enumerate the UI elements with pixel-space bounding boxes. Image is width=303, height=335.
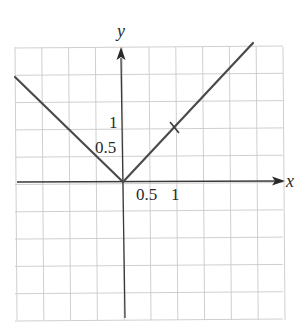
y-axis-label: y bbox=[115, 21, 125, 41]
grid-line-horizontal bbox=[15, 128, 283, 130]
x-axis-label: x bbox=[285, 171, 294, 191]
grid-line-horizontal bbox=[15, 319, 283, 321]
grid-line-vertical bbox=[283, 47, 285, 320]
grid-line-horizontal bbox=[15, 292, 283, 294]
abs-value-graph: x y 1 0.5 0.5 1 bbox=[0, 0, 303, 335]
grid-line-vertical bbox=[42, 47, 44, 320]
grid-line-horizontal bbox=[15, 210, 283, 212]
x-tick-label-0-5: 0.5 bbox=[136, 185, 157, 204]
grid-line-vertical bbox=[256, 47, 258, 320]
grid-line-horizontal bbox=[15, 264, 283, 266]
y-tick-label-0-5: 0.5 bbox=[95, 138, 116, 157]
grid-line-vertical bbox=[15, 47, 17, 320]
abs-value-curve bbox=[15, 43, 253, 182]
y-axis: y bbox=[115, 21, 126, 318]
grid-line-horizontal bbox=[15, 237, 283, 239]
x-tick-label-1: 1 bbox=[171, 185, 180, 204]
grid-line-vertical bbox=[69, 47, 71, 320]
grid bbox=[15, 46, 285, 321]
y-tick-label-1: 1 bbox=[109, 113, 118, 132]
grid-line-vertical bbox=[229, 47, 231, 320]
